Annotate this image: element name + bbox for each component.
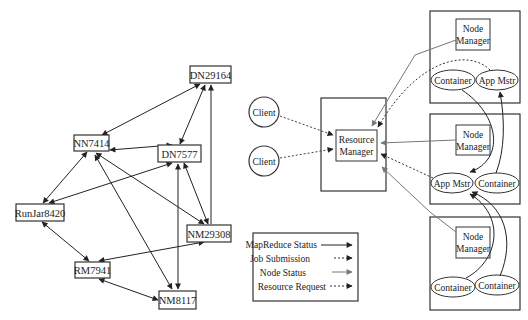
edge-nn7414-runjar8420 [43,152,87,203]
ellipse-label: Container [434,283,472,293]
node-manager-3: Node Manager [456,227,491,258]
node-dn29164: DN29164 [190,66,232,83]
edge-dn7577-runjar8420 [49,163,172,203]
app-master-ellipse-1: App Mstr [476,70,518,90]
legend-label-resource-request: Resource Request [258,282,327,292]
node-label: NM8117 [159,295,197,306]
ellipse-label: App Mstr [479,76,517,86]
edge-nn7414-nm29308 [96,153,204,224]
client-1: Client [249,97,279,127]
container-ellipse-3a: Container [431,277,475,297]
edge-rm7941-nm8117 [99,279,158,300]
app-master-ellipse-2: App Mstr [431,173,473,193]
node-manager-1: Node Manager [456,19,491,50]
edge-dn7577-dn29164 [180,85,205,144]
node-label: NN7414 [73,138,110,149]
edge-dn7577-nm29308 [184,163,208,224]
ellipse-label: App Mstr [434,179,472,189]
nm-label-line2: Manager [456,142,491,152]
node-nn7414: NN7414 [73,135,110,151]
legend: MapReduce Status Job Submission Node Sta… [245,233,358,301]
node-nm29308: NM29308 [187,225,231,242]
rm-label-line2: Manager [340,147,375,157]
client-label: Client [252,157,276,167]
node-label: DN29164 [190,70,232,81]
ellipse-label: Container [478,179,516,189]
legend-label-node-status: Node Status [260,268,306,278]
left-graph-edges [42,84,211,300]
legend-label-job-submission: Job Submission [250,254,310,264]
nm-label-line1: Node [463,232,484,242]
node-label: DN7577 [161,149,197,160]
rm-label-line1: Resource [339,135,374,145]
node-label: RunJar8420 [15,208,66,219]
edge-nn7414-dn29164 [102,84,200,135]
node-label: RM7941 [74,265,111,276]
ellipse-label: Container [478,281,516,291]
nm-label-line1: Node [463,130,484,140]
node-runjar8420: RunJar8420 [15,204,66,221]
nm-label-line2: Manager [456,244,491,254]
diagram-canvas: DN29164 NN7414 DN7577 RunJar8420 NM29308… [0,0,528,320]
node-nm8117: NM8117 [159,291,197,309]
edge-nm29308-rm7941 [99,242,204,261]
resource-manager-box: Resource Manager [336,130,377,161]
node-label: NM29308 [187,229,230,240]
node-rm7941: RM7941 [74,262,111,278]
nm-label-line1: Node [463,24,484,34]
edge-runjar8420-rm7941 [42,222,89,261]
container-ellipse-2: Container [475,173,519,193]
client-label: Client [252,108,276,118]
container-ellipse-3b: Container [475,275,519,295]
client-2: Client [249,146,279,176]
ellipse-label: Container [434,76,472,86]
edge-appmstr2-rm [381,154,433,178]
nm-label-line2: Manager [456,36,491,46]
node-dn7577: DN7577 [158,145,201,162]
legend-label-mapreduce-status: MapReduce Status [245,240,317,250]
container-ellipse-1a: Container [431,70,475,90]
node-manager-2: Node Manager [456,125,491,155]
